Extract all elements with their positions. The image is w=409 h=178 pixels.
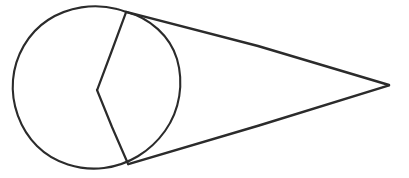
geometry-figure-svg	[0, 0, 409, 178]
canvas-background	[0, 0, 409, 178]
figure-canvas	[0, 0, 409, 178]
